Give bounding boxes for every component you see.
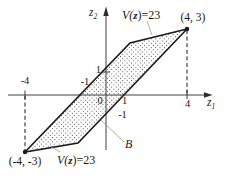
y-axis-sub: 2 bbox=[93, 12, 97, 21]
contour-label-bottom: V(z)=23 bbox=[57, 153, 95, 167]
vertex-label-bottom-left: (-4, -3) bbox=[9, 155, 42, 168]
region-label-b: B bbox=[125, 137, 133, 151]
tick-label-x-pos4: 4 bbox=[185, 98, 191, 109]
vertex-dot-top-right bbox=[185, 27, 189, 31]
tick-label-y-pos1: 1 bbox=[96, 64, 101, 75]
contour-top-post: )=23 bbox=[138, 8, 161, 22]
y-axis-label: z2 bbox=[88, 6, 97, 21]
tick-label-x-neg4: -4 bbox=[21, 75, 30, 86]
tick-label-x-neg1: -1 bbox=[81, 76, 90, 87]
math-diagram-feasible-region: z2 z1 V(z)=23 V(z)=23 (4, 3) (-4, -3) B … bbox=[0, 0, 227, 180]
tick-label-x-pos1: 1 bbox=[122, 95, 127, 106]
leader-contour-top bbox=[147, 21, 152, 35]
vertex-label-top-right: (4, 3) bbox=[181, 11, 206, 24]
x-axis-label: z1 bbox=[206, 96, 215, 111]
vertex-dot-bottom-left bbox=[23, 150, 27, 154]
y-axis-arrow-icon bbox=[103, 7, 108, 17]
tick-label-y-neg1: -1 bbox=[118, 109, 127, 120]
diagram-canvas: z2 z1 V(z)=23 V(z)=23 (4, 3) (-4, -3) B … bbox=[0, 0, 227, 180]
leader-region-b bbox=[101, 120, 124, 142]
contour-bottom-post: )=23 bbox=[73, 153, 96, 167]
contour-label-top: V(z)=23 bbox=[122, 8, 160, 22]
tick-label-origin: 0 bbox=[97, 95, 102, 106]
x-axis-sub: 1 bbox=[211, 102, 215, 111]
